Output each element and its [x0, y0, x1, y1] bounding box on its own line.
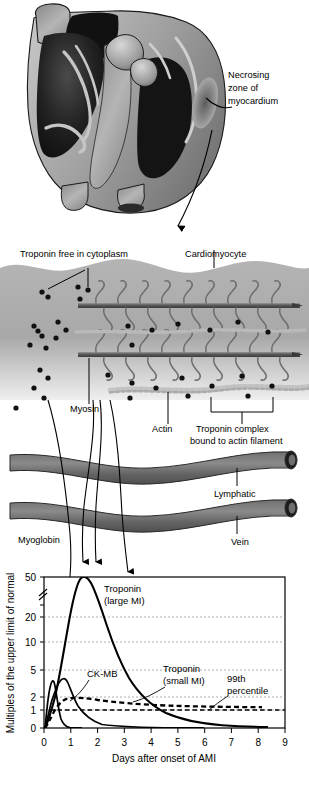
x-axis-title: Days after onset of AMI: [112, 753, 216, 764]
y-axis-title: Multiples of the upper limit of normal: [5, 573, 16, 734]
xtick-label-0: 0: [41, 737, 47, 748]
ytick-label-5: 5: [30, 665, 36, 676]
necrosing-zone-label-line3: myocardium: [228, 96, 278, 106]
xtick-label-8: 8: [255, 737, 261, 748]
valve-leaflet-lower: [131, 59, 158, 87]
apex-stump-left: [61, 182, 88, 210]
ytick-label-50: 50: [25, 572, 37, 583]
ann-troponin-large-line1: Troponin: [104, 583, 141, 594]
troponin-complex-label-line1: Troponin complex: [196, 424, 269, 434]
vein-label: Vein: [231, 537, 249, 547]
xtick-label-7: 7: [229, 737, 235, 748]
ytick-label-20: 20: [25, 612, 37, 623]
ytick-label-0: 0: [30, 723, 36, 734]
actin-label: Actin: [152, 424, 172, 434]
ann-troponin-small-line2: (small MI): [163, 675, 205, 686]
xtick-label-3: 3: [122, 737, 128, 748]
ann-troponin-large-line2: (large MI): [104, 595, 145, 606]
xtick-label-5: 5: [175, 737, 181, 748]
actin-filament-mid: [76, 330, 305, 332]
ann-troponin-small-line1: Troponin: [163, 663, 200, 674]
lymphatic-lumen-inner: [289, 454, 296, 465]
ytick-label-1: 1: [30, 705, 36, 716]
figure-svg: Necrosing zone of myocardium: [0, 0, 309, 788]
ann-ckmb-line1: CK-MB: [87, 668, 118, 679]
myosin-label: Myosin: [70, 404, 99, 414]
lymphatic-label: Lymphatic: [214, 489, 256, 499]
myosin-filament-2: [78, 352, 300, 357]
myoglobin-label: Myoglobin: [18, 535, 60, 545]
ytick-label-2: 2: [30, 692, 36, 703]
myosin-filament-1: [78, 303, 300, 308]
xtick-label-6: 6: [202, 737, 208, 748]
necrosing-zone-label-line2: zone of: [228, 83, 259, 93]
figure-root: Necrosing zone of myocardium: [0, 0, 309, 788]
xtick-label-2: 2: [95, 737, 101, 748]
xtick-label-1: 1: [68, 737, 74, 748]
troponin-free-label: Troponin free in cytoplasm: [20, 249, 128, 259]
necrosing-zone-label-line1: Necrosing: [228, 70, 269, 80]
troponin-complex-label-line2: bound to actin filament: [190, 436, 283, 446]
xtick-label-4: 4: [148, 737, 154, 748]
xtick-label-9: 9: [282, 737, 288, 748]
ann-99th-line2: percentile: [227, 685, 268, 696]
apex-stump-lumen: [118, 204, 144, 213]
cardiomyocyte-label: Cardiomyocyte: [185, 249, 246, 259]
ann-99th-line1: 99th: [227, 673, 246, 684]
ytick-label-10: 10: [25, 637, 37, 648]
vein-lumen-inner: [289, 502, 296, 513]
